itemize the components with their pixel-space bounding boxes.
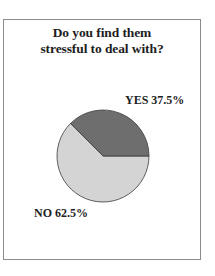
label-yes: YES 37.5%: [125, 93, 184, 108]
pie-chart: [0, 0, 215, 276]
label-no: NO 62.5%: [34, 206, 88, 221]
